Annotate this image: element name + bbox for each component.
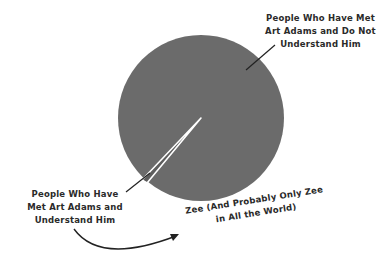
label-line: Understand Him [20,214,130,227]
label-line: Met Art Adams and [20,201,130,214]
label-line: Understand Him [258,38,381,51]
curved-arrow [74,229,176,249]
label-line: People Who Have Met [258,12,381,25]
label-do-not-understand: People Who Have Met Art Adams and Do Not… [258,12,381,51]
label-line: People Who Have [20,188,130,201]
label-line: Art Adams and Do Not [258,25,381,38]
label-understand: People Who Have Met Art Adams and Unders… [20,188,130,227]
